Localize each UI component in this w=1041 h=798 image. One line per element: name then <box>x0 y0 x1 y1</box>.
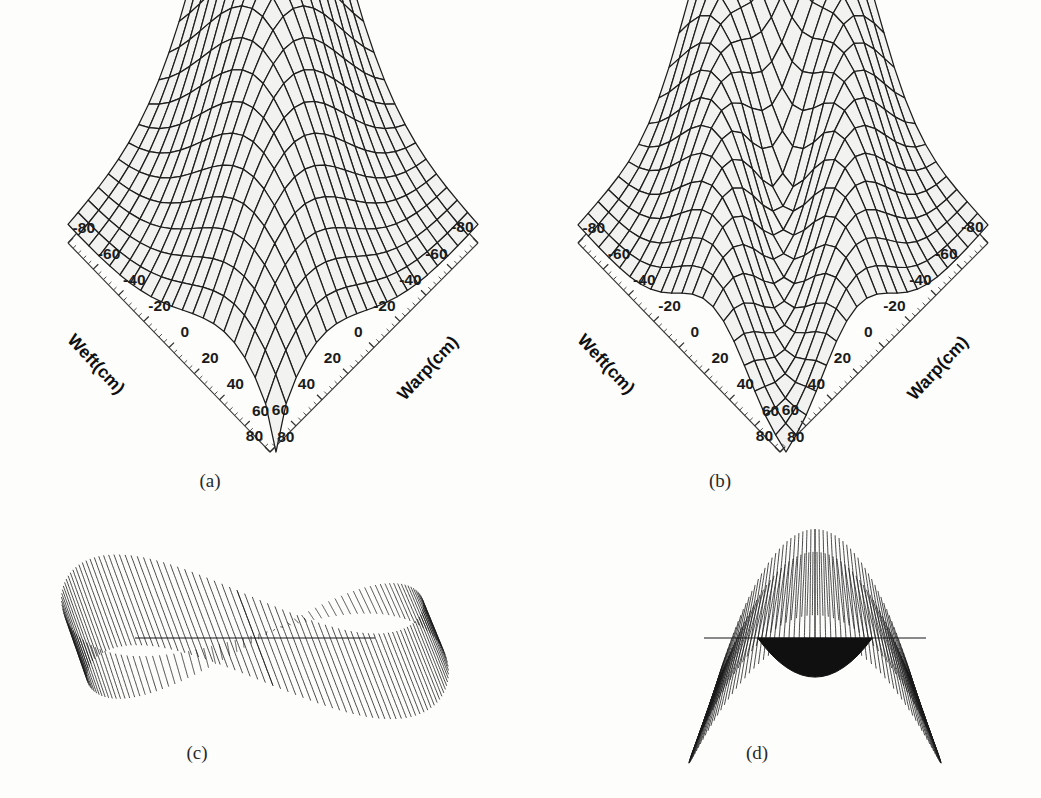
caption-d: (d) <box>697 742 817 764</box>
svg-text:-60: -60 <box>935 245 957 262</box>
svg-text:40: 40 <box>808 375 825 392</box>
svg-text:0: 0 <box>864 323 873 340</box>
panel-d <box>630 493 1000 783</box>
svg-text:40: 40 <box>737 375 754 392</box>
svg-text:-80: -80 <box>961 218 983 235</box>
svg-text:-60: -60 <box>608 245 630 262</box>
svg-text:80: 80 <box>787 428 804 445</box>
svg-text:-20: -20 <box>658 297 680 314</box>
caption-b: (b) <box>660 470 780 492</box>
svg-text:Weft(cm): Weft(cm) <box>574 330 639 398</box>
svg-text:20: 20 <box>834 349 851 366</box>
svg-text:60: 60 <box>762 402 779 419</box>
svg-text:-40: -40 <box>633 271 655 288</box>
svg-text:-20: -20 <box>883 297 905 314</box>
svg-text:0: 0 <box>691 323 700 340</box>
caption-a: (a) <box>150 470 270 492</box>
caption-c: (c) <box>137 742 257 764</box>
svg-text:Warp(cm): Warp(cm) <box>903 332 972 404</box>
svg-text:-40: -40 <box>909 271 931 288</box>
svg-text:-80: -80 <box>583 219 605 236</box>
svg-text:20: 20 <box>711 349 728 366</box>
panel-b: -80-60-40-20020406080Weft(cm)-80-60-40-2… <box>0 0 1041 520</box>
svg-text:80: 80 <box>756 427 773 444</box>
panel-c <box>55 493 455 783</box>
svg-text:60: 60 <box>782 401 799 418</box>
